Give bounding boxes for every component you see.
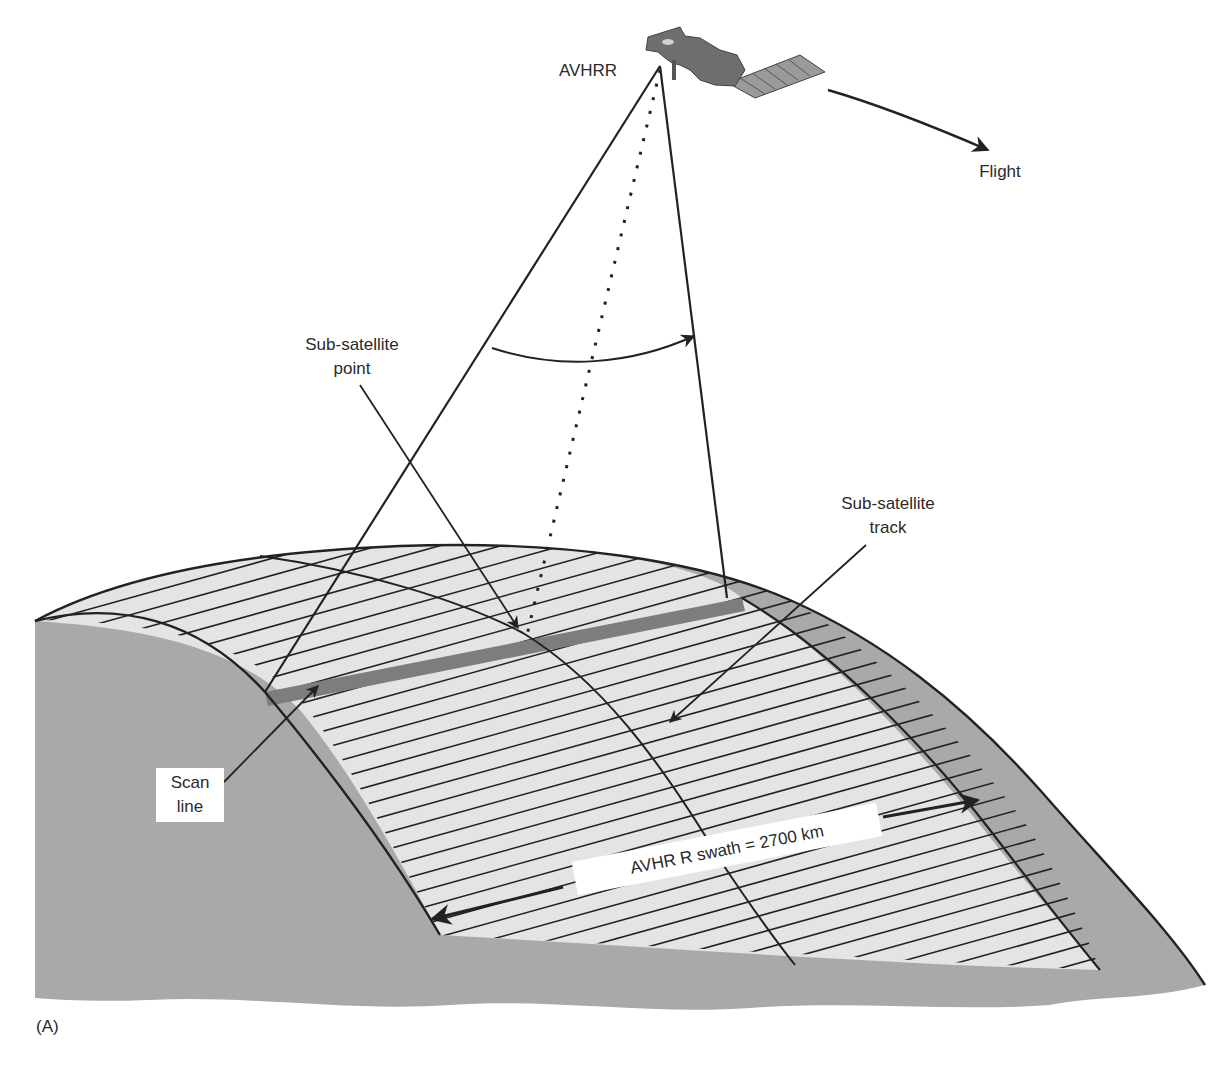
avhrr-swath-diagram: AVHR R swath = 2700 km Scan line AVHRR F… xyxy=(0,0,1223,1069)
sub-satellite-point-label-1: Sub-satellite xyxy=(305,335,399,354)
sub-satellite-point-label-2: point xyxy=(334,359,371,378)
sub-satellite-track-label-2: track xyxy=(870,518,907,537)
scan-line-label-1: Scan xyxy=(171,773,210,792)
sub-satellite-track-label-1: Sub-satellite xyxy=(841,494,935,513)
satellite-icon xyxy=(646,27,825,98)
flight-label: Flight xyxy=(979,162,1021,181)
scan-cone-right xyxy=(660,66,727,598)
scan-line-label-2: line xyxy=(177,797,203,816)
instrument-label: AVHRR xyxy=(559,61,617,80)
panel-label: (A) xyxy=(36,1017,59,1036)
flight-arrow xyxy=(828,90,988,150)
